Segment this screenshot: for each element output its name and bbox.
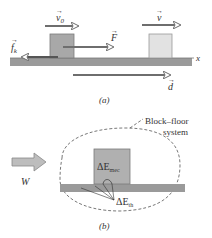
work-label: W: [21, 176, 31, 187]
panel-a: x v0 → v → F → fk → d → (a): [10, 7, 200, 105]
caption-a: (a): [99, 95, 110, 105]
v0-vector-arrow: →: [56, 7, 63, 15]
panel-b: Block–floor system W ΔEmec ΔEth (b): [12, 116, 189, 231]
block-final: [149, 34, 172, 58]
v-vector-arrow: →: [156, 7, 163, 15]
friction-vector-arrow: →: [11, 36, 18, 44]
floor-a: [10, 58, 192, 66]
system-label-leader: [130, 119, 143, 128]
displacement-vector-arrow: →: [168, 76, 175, 84]
physics-diagram: x v0 → v → F → fk → d → (a): [0, 0, 212, 238]
thermal-energy-label: ΔEth: [116, 196, 133, 208]
caption-b: (b): [99, 221, 110, 231]
floor-b: [60, 184, 185, 192]
system-label-line2: system: [163, 127, 188, 137]
system-label-line1: Block–floor: [145, 116, 189, 126]
force-vector-arrow: →: [111, 27, 118, 35]
x-axis-label: x: [195, 53, 200, 63]
work-arrow: [12, 153, 46, 171]
